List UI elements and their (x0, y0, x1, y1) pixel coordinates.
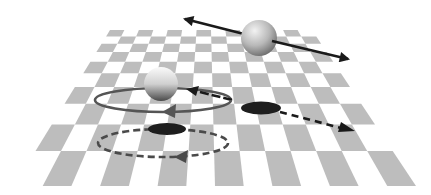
checker-square (96, 44, 117, 52)
checker-square (227, 44, 245, 52)
checker-square (286, 73, 311, 87)
checker-square (106, 30, 124, 36)
checker-square (340, 104, 375, 125)
checker-square (283, 125, 317, 152)
checker-square (95, 73, 121, 87)
checker-square (65, 87, 95, 104)
checker-square (108, 52, 130, 62)
checker-square (142, 52, 162, 62)
checker-square (214, 151, 244, 186)
checker-square (212, 73, 232, 87)
checker-square (117, 36, 136, 43)
checker-square (211, 36, 227, 43)
checker-square (196, 30, 211, 36)
checker-square (265, 151, 301, 186)
checker-square (43, 151, 87, 186)
checker-square (301, 36, 321, 43)
checker-square (367, 151, 416, 186)
checker-square (232, 87, 255, 104)
checker-square (195, 44, 212, 52)
checker-square (277, 52, 298, 62)
translating-sphere-shadow (241, 102, 281, 115)
checker-square (298, 104, 329, 125)
checker-square (129, 44, 148, 52)
checker-square (229, 62, 249, 74)
checkerboard-plane (36, 30, 417, 186)
checker-square (136, 30, 153, 36)
checker-square (75, 104, 107, 125)
checker-square (323, 73, 351, 87)
checker-square (149, 36, 167, 43)
checker-square (283, 30, 301, 36)
orbiting-sphere-shadow (148, 123, 186, 135)
checker-square (177, 52, 195, 62)
checker-square (299, 62, 323, 74)
checker-square (194, 62, 212, 74)
checker-square (264, 62, 286, 74)
translating-sphere (241, 20, 277, 56)
checker-square (311, 87, 340, 104)
checker-square (237, 125, 266, 152)
checker-square (249, 73, 272, 87)
checker-square (271, 87, 297, 104)
checker-square (36, 125, 75, 152)
checker-square (316, 151, 358, 186)
checker-square (83, 62, 108, 74)
checker-square (189, 125, 215, 152)
checker-square (180, 36, 196, 43)
scene-diagram (0, 0, 431, 195)
checker-square (120, 62, 142, 74)
checker-square (166, 30, 182, 36)
checker-square (212, 52, 230, 62)
translation-arrow-back (185, 19, 244, 34)
checker-square (162, 44, 180, 52)
orbiting-sphere (144, 67, 178, 101)
